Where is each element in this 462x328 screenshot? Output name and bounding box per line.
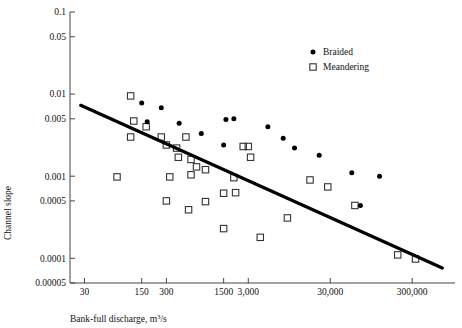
data-point-braided xyxy=(349,170,354,175)
y-tick-label: 0.01 xyxy=(49,89,66,99)
data-point-meandering xyxy=(193,164,199,170)
y-tick-label: 0.005 xyxy=(45,114,67,124)
data-point-braided xyxy=(231,116,236,121)
x-tick-label: 1500 xyxy=(214,287,233,297)
x-axis-title: Bank-full discharge, m3/s xyxy=(70,313,167,325)
y-tick-label: 0.1 xyxy=(54,7,66,17)
y-tick-label: 0.05 xyxy=(49,32,66,42)
data-point-meandering xyxy=(257,234,263,240)
data-point-meandering xyxy=(220,225,226,231)
data-point-meandering xyxy=(185,207,191,213)
x-tick-label: 30,000 xyxy=(317,287,343,297)
data-point-braided xyxy=(377,174,382,179)
x-tick-label: 300 xyxy=(159,287,174,297)
data-point-meandering xyxy=(183,134,189,140)
data-point-braided xyxy=(292,146,297,151)
data-point-meandering xyxy=(247,154,253,160)
data-point-braided xyxy=(199,131,204,136)
y-axis-title: Channel slope xyxy=(3,186,13,240)
data-point-meandering xyxy=(352,202,358,208)
tick-marks xyxy=(70,12,412,283)
regression-trend-line xyxy=(81,105,443,268)
data-point-braided xyxy=(221,142,226,147)
legend-label-meandering: Meandering xyxy=(323,62,369,72)
data-point-braided xyxy=(317,153,322,158)
chart-container: 3015030015003,00030,000300,000 0.10.050.… xyxy=(0,0,462,328)
y-tick-label: 0.0001 xyxy=(40,254,66,264)
x-tick-label: 300,000 xyxy=(397,287,428,297)
axis-lines xyxy=(70,12,455,283)
legend-label-braided: Braided xyxy=(323,47,353,57)
data-point-braided xyxy=(281,136,286,141)
axes xyxy=(70,12,455,283)
data-point-braided xyxy=(358,203,363,208)
trend-line xyxy=(81,105,443,268)
data-point-meandering xyxy=(325,184,331,190)
y-tick-label: 0.00005 xyxy=(35,278,66,288)
data-point-braided xyxy=(177,121,182,126)
data-point-meandering xyxy=(127,134,133,140)
data-point-meandering xyxy=(307,177,313,183)
data-point-braided xyxy=(265,124,270,129)
data-point-meandering xyxy=(131,118,137,124)
data-point-braided xyxy=(139,100,144,105)
data-point-meandering xyxy=(163,198,169,204)
data-point-meandering xyxy=(395,252,401,258)
data-point-meandering xyxy=(188,172,194,178)
data-point-meandering xyxy=(175,154,181,160)
data-point-meandering xyxy=(202,198,208,204)
data-point-meandering xyxy=(127,93,133,99)
legend-marker-meandering xyxy=(310,64,316,70)
data-point-braided xyxy=(145,119,150,124)
y-tick-label: 0.0005 xyxy=(40,196,66,206)
y-axis-tick-labels: 0.10.050.010.0050.0010.00050.00010.00005 xyxy=(35,7,66,288)
legend: BraidedMeandering xyxy=(310,47,369,72)
data-point-meandering xyxy=(202,166,208,172)
data-point-meandering xyxy=(232,189,238,195)
data-point-meandering xyxy=(284,215,290,221)
y-tick-label: 0.001 xyxy=(45,172,67,182)
data-point-meandering xyxy=(114,174,120,180)
x-tick-label: 30 xyxy=(80,287,90,297)
x-axis-tick-labels: 3015030015003,00030,000300,000 xyxy=(80,287,428,297)
data-point-meandering xyxy=(220,190,226,196)
x-tick-label: 3,000 xyxy=(238,287,260,297)
legend-marker-braided xyxy=(311,50,316,55)
data-point-meandering xyxy=(143,124,149,130)
data-point-meandering xyxy=(167,174,173,180)
data-point-braided xyxy=(223,117,228,122)
scatter-plot-svg: 3015030015003,00030,000300,000 0.10.050.… xyxy=(0,0,462,328)
data-point-braided xyxy=(159,105,164,110)
x-tick-label: 150 xyxy=(135,287,150,297)
